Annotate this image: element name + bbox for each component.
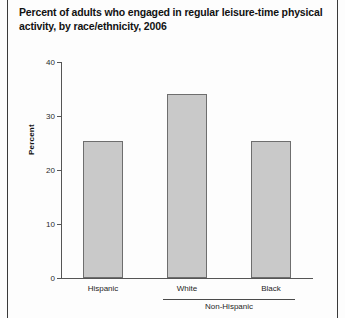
page-rule-right xyxy=(337,0,338,318)
y-tick-mark xyxy=(57,224,61,225)
bar-hispanic xyxy=(83,141,123,278)
y-tick-label: 20 xyxy=(46,166,55,175)
x-tick-label: Hispanic xyxy=(88,284,119,293)
chart-title: Percent of adults who engaged in regular… xyxy=(19,5,329,33)
chart-title-line-1: Percent of adults who engaged in regular… xyxy=(19,5,329,19)
y-tick-mark xyxy=(57,62,61,63)
bar-black xyxy=(251,141,291,278)
group-bracket-label: Non-Hispanic xyxy=(205,302,253,311)
y-tick-mark xyxy=(57,170,61,171)
x-axis-line xyxy=(61,278,313,279)
y-tick-label: 30 xyxy=(46,112,55,121)
bar-white xyxy=(167,94,207,278)
y-axis-line xyxy=(61,62,62,278)
x-tick-label: Black xyxy=(261,284,281,293)
y-tick-label: 40 xyxy=(46,58,55,67)
y-tick-label: 0 xyxy=(51,274,55,283)
y-axis-title: Percent xyxy=(27,124,36,155)
page-rule-left xyxy=(7,0,8,318)
y-tick-mark xyxy=(57,116,61,117)
x-tick-label: White xyxy=(177,284,197,293)
chart-title-line-2: activity, by race/ethnicity, 2006 xyxy=(19,19,329,33)
group-bracket-rule xyxy=(163,299,295,300)
y-tick-label: 10 xyxy=(46,220,55,229)
y-tick-mark xyxy=(57,278,61,279)
chart-page: Percent of adults who engaged in regular… xyxy=(0,0,345,318)
plot-area: 010203040 HispanicWhiteBlack Non-Hispani… xyxy=(61,62,313,278)
